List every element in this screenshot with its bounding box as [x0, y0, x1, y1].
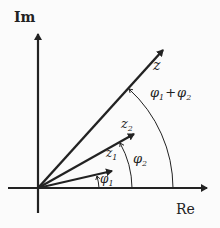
angle-phi1-plus-phi2-label: φ1+φ2 — [150, 86, 191, 102]
vector-z1-label: z1 — [106, 147, 117, 162]
arc-phi1-plus-phi2 — [129, 89, 173, 188]
arc-phi1 — [97, 176, 99, 188]
complex-plane-diagram — [0, 0, 220, 228]
imaginary-axis-label: Im — [14, 10, 35, 24]
angle-phi2-label: φ2 — [133, 152, 147, 168]
vector-z2-label: z2 — [121, 117, 133, 133]
angle-phi1-label: φ1 — [100, 173, 114, 188]
real-axis-label: Re — [176, 202, 195, 216]
vector-z-label: z — [153, 58, 160, 72]
arc-phi2 — [120, 143, 132, 188]
vector-z2 — [38, 134, 134, 188]
